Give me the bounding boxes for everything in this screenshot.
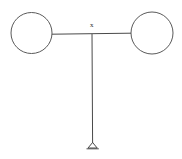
left-mass-circle [11,13,52,54]
right-mass-circle [131,12,173,54]
vertical-support-rod [92,34,93,143]
pivot-triangle-icon [88,143,97,149]
horizontal-beam [52,33,131,34]
pivot-point-label: x [90,22,94,29]
figure-canvas: x [0,0,182,159]
